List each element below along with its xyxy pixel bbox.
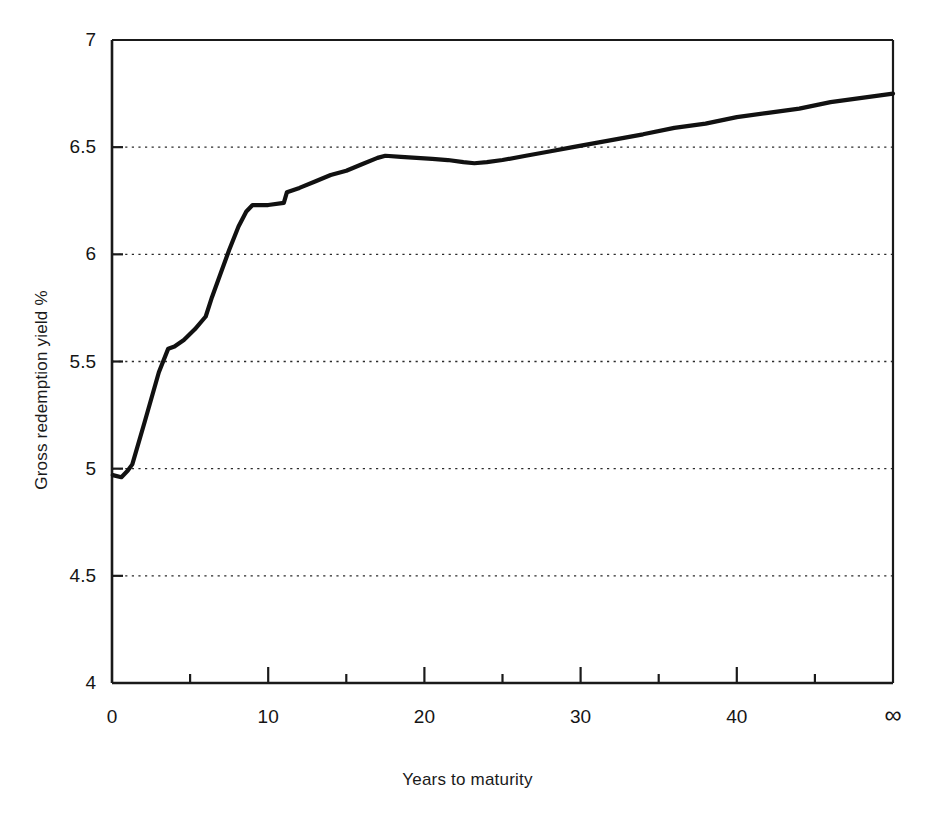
- y-tick-label: 6.5: [30, 136, 96, 158]
- x-tick-label: 30: [570, 706, 591, 728]
- x-tick-label: 0: [107, 706, 118, 728]
- x-tick-label: ∞: [884, 705, 901, 724]
- x-tick-label: 10: [258, 706, 279, 728]
- y-tick-label: 7: [30, 29, 96, 51]
- chart-figure: 44.555.566.57 010203040∞ Gross redemptio…: [0, 0, 935, 822]
- x-tick-label: 20: [414, 706, 435, 728]
- y-axis-title: Gross redemption yield %: [32, 240, 52, 540]
- y-tick-label: 4.5: [30, 565, 96, 587]
- yield-curve-chart: [0, 0, 935, 822]
- x-axis-title: Years to maturity: [0, 770, 935, 790]
- x-tick-label: 40: [726, 706, 747, 728]
- y-tick-label: 4: [30, 672, 96, 694]
